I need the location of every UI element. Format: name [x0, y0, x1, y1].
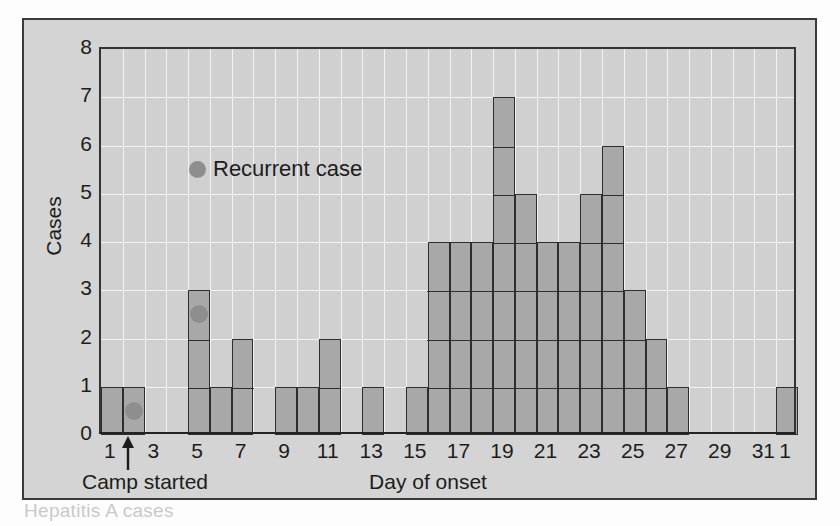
vertical-gridline — [689, 49, 690, 433]
plot-panel-right-edge — [794, 47, 796, 433]
bar-cell-divider — [580, 291, 603, 292]
bar-day-16 — [428, 242, 450, 435]
y-tick-6: 6 — [64, 133, 92, 154]
vertical-gridline — [362, 49, 363, 433]
recurrent-case-marker-day-2 — [125, 402, 143, 420]
y-tick-7: 7 — [64, 84, 92, 105]
x-tick-2: 5 — [177, 440, 217, 461]
bar-day-25 — [624, 290, 646, 435]
x-tick-11: 23 — [569, 440, 609, 461]
vertical-gridline — [384, 49, 385, 433]
vertical-gridline — [667, 49, 668, 433]
bar-day-21 — [537, 242, 559, 435]
bar-cell-divider — [580, 340, 603, 341]
horizontal-gridline — [101, 194, 796, 195]
x-tick-4: 9 — [264, 440, 304, 461]
bar-day-24 — [602, 146, 624, 436]
x-tick-14: 29 — [700, 440, 740, 461]
horizontal-gridline — [101, 146, 796, 147]
x-tick-10: 21 — [526, 440, 566, 461]
bar-cell-divider — [514, 340, 537, 341]
bar-day-9 — [275, 387, 297, 435]
bar-cell-divider — [493, 291, 516, 292]
y-tick-8: 8 — [64, 36, 92, 57]
bar-cell-divider — [536, 340, 559, 341]
bar-day-20 — [515, 194, 537, 435]
bar-cell-divider — [427, 388, 450, 389]
bar-cell-divider — [514, 243, 537, 244]
bar-cell-divider — [536, 291, 559, 292]
bar-day-13 — [362, 387, 384, 435]
bar-day-22 — [558, 242, 580, 435]
bar-cell-divider — [318, 388, 341, 389]
y-tick-5: 5 — [64, 181, 92, 202]
bar-day-10 — [297, 387, 319, 435]
bar-cell-divider — [514, 388, 537, 389]
y-tick-1: 1 — [64, 374, 92, 395]
y-tick-2: 2 — [64, 326, 92, 347]
bar-day-11 — [319, 339, 341, 436]
bar-day-26 — [646, 339, 668, 436]
bar-cell-divider — [580, 388, 603, 389]
plot-panel — [99, 47, 796, 433]
camp-started-arrow-icon — [121, 436, 135, 470]
recurrent-case-dot-icon — [189, 161, 206, 178]
y-tick-4: 4 — [64, 229, 92, 250]
vertical-gridline — [145, 49, 146, 433]
bar-cell-divider — [645, 388, 668, 389]
x-tick-1: 3 — [133, 440, 173, 461]
x-tick-8: 17 — [438, 440, 478, 461]
bar-cell-divider — [188, 340, 211, 341]
x-tick-3: 7 — [221, 440, 261, 461]
bar-cell-divider — [514, 291, 537, 292]
x-axis-line — [99, 432, 796, 434]
bar-cell-divider — [188, 388, 211, 389]
bar-day-27 — [667, 387, 689, 435]
bar-cell-divider — [558, 388, 581, 389]
bar-cell-divider — [493, 340, 516, 341]
bar-day-19 — [493, 97, 515, 435]
bar-cell-divider — [623, 340, 646, 341]
bar-cell-divider — [493, 388, 516, 389]
bar-day-15 — [406, 387, 428, 435]
vertical-gridline — [123, 49, 124, 433]
bar-cell-divider — [601, 291, 624, 292]
vertical-gridline — [406, 49, 407, 433]
bar-cell-divider — [471, 388, 494, 389]
x-tick-5: 11 — [308, 440, 348, 461]
x-axis-title: Day of onset — [318, 470, 538, 494]
x-tick-12: 25 — [613, 440, 653, 461]
legend-label: Recurrent case — [213, 158, 362, 180]
bar-cell-divider — [471, 340, 494, 341]
bar-cell-divider — [231, 388, 254, 389]
vertical-gridline — [733, 49, 734, 433]
vertical-gridline — [297, 49, 298, 433]
vertical-gridline — [754, 49, 755, 433]
x-tick-16: 1 — [765, 440, 805, 461]
bar-cell-divider — [427, 291, 450, 292]
bar-day-7 — [232, 339, 254, 436]
camp-started-label: Camp started — [30, 470, 260, 494]
bar-cell-divider — [471, 291, 494, 292]
epidemic-curve-figure: 012345678 Cases 135791113151719212325272… — [0, 0, 840, 526]
bar-day-23 — [580, 194, 602, 435]
y-tick-3: 3 — [64, 277, 92, 298]
bar-cell-divider — [536, 388, 559, 389]
bar-cell-divider — [601, 243, 624, 244]
vertical-gridline — [275, 49, 276, 433]
bar-cell-divider — [601, 388, 624, 389]
bar-cell-divider — [493, 243, 516, 244]
x-tick-13: 27 — [656, 440, 696, 461]
bar-cell-divider — [493, 195, 516, 196]
bar-cell-divider — [449, 291, 472, 292]
x-tick-6: 13 — [351, 440, 391, 461]
vertical-gridline — [166, 49, 167, 433]
bar-cell-divider — [558, 340, 581, 341]
vertical-gridline — [711, 49, 712, 433]
bar-cell-divider — [601, 340, 624, 341]
y-axis-title: Cases — [42, 166, 66, 286]
vertical-gridline — [210, 49, 211, 433]
bar-cell-divider — [623, 388, 646, 389]
x-tick-7: 15 — [395, 440, 435, 461]
x-tick-9: 19 — [482, 440, 522, 461]
